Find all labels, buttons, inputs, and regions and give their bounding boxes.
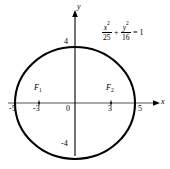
- equation-x-fraction: x2 25: [102, 24, 112, 41]
- ellipse-figure: y x 0 -5 -3 3 5 4 -4 F1 F2 x2 25 + y2 16…: [0, 0, 170, 169]
- origin-label: 0: [66, 105, 70, 113]
- y-axis-label: y: [77, 3, 81, 11]
- x-tick-label--5: -5: [9, 105, 16, 113]
- equation-x-exponent: 2: [107, 20, 110, 26]
- y-axis-arrowhead: [72, 10, 78, 17]
- equation-equals-one: = 1: [133, 29, 144, 37]
- equation-plus-sign: +: [114, 29, 119, 37]
- equation-y-denominator: 16: [121, 32, 131, 41]
- x-tick-label-3: 3: [108, 105, 112, 113]
- equation-y-numerator: y2: [122, 24, 130, 32]
- focus-label-2: F2: [106, 84, 114, 92]
- equation-y-fraction: y2 16: [121, 24, 131, 41]
- x-axis-arrowhead: [153, 100, 160, 106]
- focus-label-1: F1: [34, 84, 42, 92]
- x-axis-label: x: [161, 98, 165, 106]
- x-tick-label-5: 5: [138, 105, 142, 113]
- focus-label-1-subscript: 1: [39, 87, 42, 93]
- focus-label-2-subscript: 2: [111, 87, 114, 93]
- equation-x-numerator: x2: [103, 24, 111, 32]
- y-tick-label-4: 4: [64, 38, 68, 46]
- equation-x-denominator: 25: [102, 32, 112, 41]
- x-tick-label--3: -3: [33, 105, 40, 113]
- y-tick-label--4: -4: [61, 140, 68, 148]
- ellipse-equation: x2 25 + y2 16 = 1: [101, 24, 145, 41]
- equation-y-exponent: 2: [126, 20, 129, 26]
